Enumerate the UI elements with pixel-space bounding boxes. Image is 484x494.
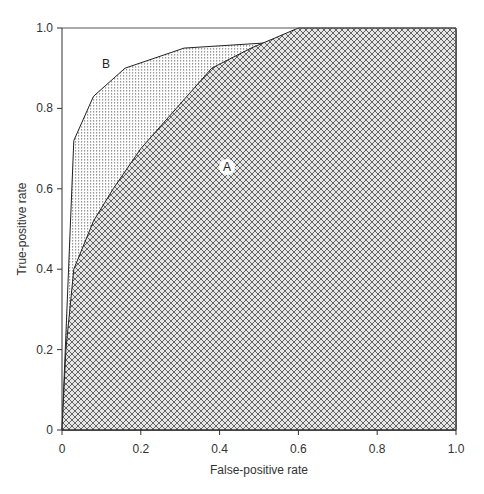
x-tick-0.4: 0.4 (211, 442, 228, 456)
y-tick-0.6: 0.6 (36, 182, 53, 196)
y-tick-1.0: 1.0 (36, 21, 53, 35)
curve-a-label: A (223, 160, 231, 174)
curve-b-label: B (102, 57, 110, 71)
x-tick-0.6: 0.6 (290, 442, 307, 456)
x-tick-0.2: 0.2 (132, 442, 149, 456)
x-axis: 0 0.2 0.4 0.6 0.8 1.0 False-positive rat… (59, 430, 465, 477)
y-tick-0.4: 0.4 (36, 262, 53, 276)
y-axis-label: True-positive rate (15, 182, 29, 275)
roc-chart: 0 0.2 0.4 0.6 0.8 1.0 True-positive rate… (0, 0, 484, 494)
y-tick-0: 0 (46, 423, 53, 437)
x-tick-1.0: 1.0 (448, 442, 465, 456)
plot-area (62, 28, 456, 430)
x-axis-label: False-positive rate (210, 463, 308, 477)
x-tick-0.8: 0.8 (369, 442, 386, 456)
y-tick-0.8: 0.8 (36, 101, 53, 115)
x-tick-0: 0 (59, 442, 66, 456)
y-axis: 0 0.2 0.4 0.6 0.8 1.0 True-positive rate (15, 21, 62, 437)
y-tick-0.2: 0.2 (36, 343, 53, 357)
